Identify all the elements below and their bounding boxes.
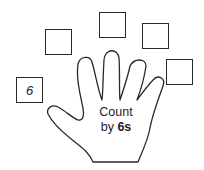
instruction-line-1: Count [91,105,141,120]
instruction-prefix: by [101,120,118,134]
answer-box-1[interactable]: 6 [16,77,43,103]
answer-value: 6 [26,83,33,98]
answer-box-3[interactable] [99,12,126,38]
instruction-label: Count by 6s [91,105,141,135]
answer-box-5[interactable] [166,59,193,85]
instruction-line-2: by 6s [91,120,141,135]
answer-box-2[interactable] [45,29,72,55]
answer-box-4[interactable] [142,23,169,49]
instruction-number: 6s [117,120,131,134]
